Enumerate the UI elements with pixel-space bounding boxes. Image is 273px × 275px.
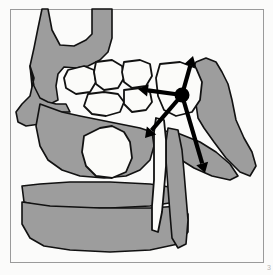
force-origin-hub: Force application point [175,88,190,103]
oral-cavity-space: Oral / tongue cavity space [82,126,132,178]
page-number-label: 3 [267,264,271,272]
ethmoid-cell-1: Anterior ethmoid air cell [64,66,96,94]
ethmoid-cell-4: Posterior ethmoid air cell [84,92,124,116]
ethmoid-cell-3: Superior ethmoid air cell [122,60,152,88]
anatomical-diagram: Sagittal section of skull showing parana… [0,0,273,275]
ethmoid-cell-2: Middle ethmoid air cell [94,60,124,90]
figure-container: Sagittal section of skull showing parana… [0,0,273,275]
